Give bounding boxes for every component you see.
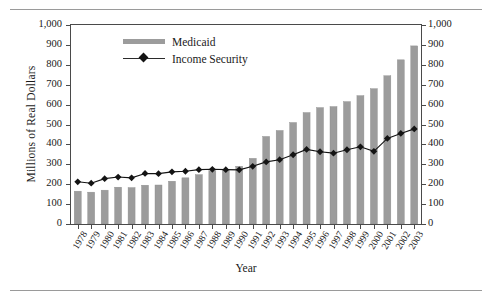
bar-1988 [209, 171, 216, 224]
x-tickmark [185, 225, 186, 229]
x-tickmark [105, 225, 106, 229]
bar-1982 [128, 188, 135, 224]
bar-1999 [357, 96, 364, 224]
bar-1992 [263, 136, 270, 224]
bar-1979 [88, 192, 95, 224]
chart-legend: Medicaid Income Security [123, 33, 248, 67]
y-tickmark [66, 65, 70, 66]
bar-1978 [74, 191, 81, 224]
y-tickmark [66, 125, 70, 126]
y-tick-left-200: 200 [0, 178, 62, 189]
x-tickmark [159, 225, 160, 229]
line-diamond-marker-icon [123, 50, 165, 67]
bar-1984 [155, 185, 162, 224]
y-tick-left-300: 300 [0, 158, 62, 169]
y-tick-left-0: 0 [0, 218, 62, 229]
y-tickmark [422, 45, 426, 46]
x-tickmark [347, 225, 348, 229]
bar-1985 [168, 181, 175, 224]
legend-label: Medicaid [172, 36, 215, 48]
bar-1993 [276, 130, 283, 224]
marker-1986 [182, 168, 189, 175]
x-tickmark [118, 225, 119, 229]
bar-1996 [317, 108, 324, 224]
y-tick-left-700: 700 [0, 79, 62, 90]
y-tickmark [66, 85, 70, 86]
y-tickmark [66, 224, 70, 225]
bar-2001 [384, 76, 391, 224]
x-tickmark [280, 225, 281, 229]
y-tick-right-900: 900 [428, 39, 488, 50]
y-tickmark [422, 144, 426, 145]
y-tick-right-700: 700 [428, 79, 488, 90]
bar-1983 [142, 185, 149, 224]
y-tick-right-300: 300 [428, 158, 488, 169]
x-tickmark [320, 225, 321, 229]
y-tick-left-900: 900 [0, 39, 62, 50]
y-tickmark [66, 25, 70, 26]
y-tick-right-600: 600 [428, 99, 488, 110]
x-tickmark [334, 225, 335, 229]
x-tickmark [387, 225, 388, 229]
y-tickmark [422, 25, 426, 26]
y-tick-right-100: 100 [428, 198, 488, 209]
bar-1986 [182, 178, 189, 224]
y-tickmark [66, 204, 70, 205]
x-tickmark [374, 225, 375, 229]
y-tickmark [422, 184, 426, 185]
y-tick-right-800: 800 [428, 59, 488, 70]
bar-1994 [290, 123, 297, 224]
x-tickmark [253, 225, 254, 229]
x-tickmark [266, 225, 267, 229]
y-tickmark [422, 105, 426, 106]
y-tickmark [66, 164, 70, 165]
bar-1995 [303, 113, 310, 224]
y-tick-left-600: 600 [0, 99, 62, 110]
y-tickmark [66, 184, 70, 185]
x-tickmark [401, 225, 402, 229]
y-tickmark [422, 125, 426, 126]
x-tickmark [145, 225, 146, 229]
y-tickmark [422, 85, 426, 86]
y-tick-left-500: 500 [0, 119, 62, 130]
y-tickmark [422, 204, 426, 205]
x-tickmark [226, 225, 227, 229]
x-tickmark [293, 225, 294, 229]
y-tickmark [422, 65, 426, 66]
x-tickmark [414, 225, 415, 229]
bar-1987 [195, 175, 202, 224]
y-tick-right-200: 200 [428, 178, 488, 189]
x-tickmark [199, 225, 200, 229]
bar-1998 [343, 102, 350, 224]
legend-item-medicaid: Medicaid [123, 33, 248, 50]
bar-2003 [411, 46, 418, 224]
bar-2000 [370, 89, 377, 224]
y-tickmark [66, 144, 70, 145]
y-tick-right-1000: 1,000 [428, 19, 488, 30]
y-tick-left-1000: 1,000 [0, 19, 62, 30]
y-tick-right-400: 400 [428, 138, 488, 149]
marker-1978 [74, 178, 81, 185]
bottom-rule [10, 290, 482, 291]
marker-1987 [195, 166, 202, 173]
marker-1980 [101, 175, 108, 182]
x-tickmark [172, 225, 173, 229]
y-tickmark [66, 45, 70, 46]
x-axis-title: Year [0, 262, 492, 274]
legend-label: Income Security [172, 53, 248, 65]
y-tickmark [422, 224, 426, 225]
marker-1983 [142, 170, 149, 177]
bar-1989 [222, 170, 229, 224]
bar-1990 [236, 166, 243, 224]
x-tickmark [239, 225, 240, 229]
marker-1982 [128, 174, 135, 181]
x-tickmark [307, 225, 308, 229]
x-tickmark [78, 225, 79, 229]
x-tickmark [212, 225, 213, 229]
bar-1980 [101, 190, 108, 224]
y-tick-right-500: 500 [428, 119, 488, 130]
y-tickmark [66, 105, 70, 106]
bar-2002 [397, 60, 404, 224]
x-tickmark [360, 225, 361, 229]
bar-1997 [330, 107, 337, 224]
